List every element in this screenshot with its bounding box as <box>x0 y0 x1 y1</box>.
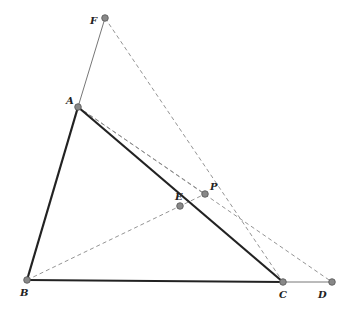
label-C: C <box>279 289 287 300</box>
label-A: A <box>65 95 74 106</box>
label-P: P <box>209 181 218 192</box>
geometry-diagram: FABCDEP <box>0 0 354 312</box>
segment-AB <box>27 107 78 280</box>
point-E <box>177 203 184 210</box>
point-B <box>24 277 31 284</box>
label-F: F <box>89 15 98 26</box>
segment-AP <box>78 107 205 194</box>
label-D: D <box>317 289 327 300</box>
point-D <box>329 279 336 286</box>
point-A <box>75 104 82 111</box>
segment-AF <box>78 18 105 107</box>
segment-BC <box>27 280 283 282</box>
point-F <box>102 15 109 22</box>
point-P <box>202 191 209 198</box>
segment-FC <box>105 18 283 282</box>
point-C <box>280 279 287 286</box>
label-B: B <box>19 287 28 298</box>
label-E: E <box>174 191 183 202</box>
